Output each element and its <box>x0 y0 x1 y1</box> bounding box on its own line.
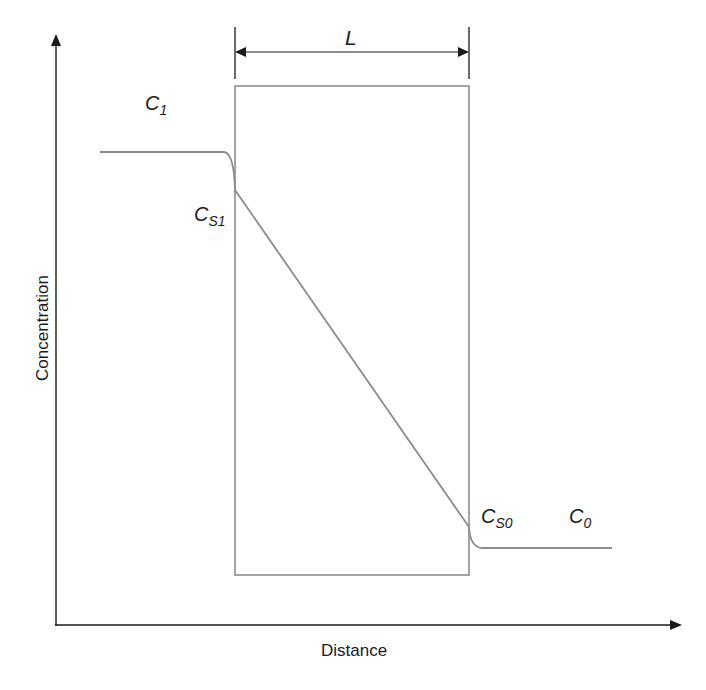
dimension-label-L: L <box>345 26 357 50</box>
dimension-arrow-right-icon <box>458 47 469 57</box>
label-cs1-main: C <box>194 203 208 225</box>
label-cs1-sub: S1 <box>208 213 225 229</box>
label-c0: C0 <box>569 505 591 531</box>
label-cs0-main: C <box>481 505 495 527</box>
label-c0-sub: 0 <box>583 515 591 531</box>
y-axis-title: Concentration <box>33 273 53 383</box>
label-cs0-sub: S0 <box>495 515 512 531</box>
x-axis-title: Distance <box>321 641 387 661</box>
label-c1: C1 <box>145 92 167 118</box>
x-axis-arrow-icon <box>670 620 682 630</box>
label-c1-sub: 1 <box>159 102 167 118</box>
label-cs0: CS0 <box>481 505 513 531</box>
concentration-profile-curve <box>100 152 612 548</box>
x-axis <box>55 620 682 630</box>
label-c0-main: C <box>569 505 583 527</box>
y-axis-arrow-icon <box>51 34 61 46</box>
membrane-box <box>235 86 469 575</box>
dimension-arrow-left-icon <box>235 47 246 57</box>
diagram-canvas <box>0 0 706 690</box>
label-cs1: CS1 <box>194 203 226 229</box>
label-c1-main: C <box>145 92 159 114</box>
